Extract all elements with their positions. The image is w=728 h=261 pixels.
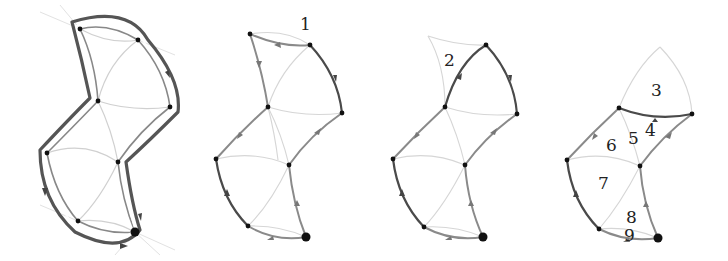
face-label-4: 4 [645,120,656,140]
face-label-9: 9 [624,225,635,245]
face-label-7: 7 [598,173,609,193]
face-label-8: 8 [626,207,637,227]
face-label-5: 5 [628,128,639,148]
mesh-diagram: 1 [0,0,728,261]
panel-4: 3 4 5 6 7 8 9 [565,47,695,245]
face-label-3: 3 [651,80,662,100]
panel-2: 1 [214,14,345,242]
figure: 1 [0,0,728,261]
step-label: 1 [300,14,311,34]
step-label: 2 [444,50,455,70]
panel-3: 2 [391,36,520,242]
face-label-6: 6 [606,135,617,155]
panel-1 [40,5,178,255]
